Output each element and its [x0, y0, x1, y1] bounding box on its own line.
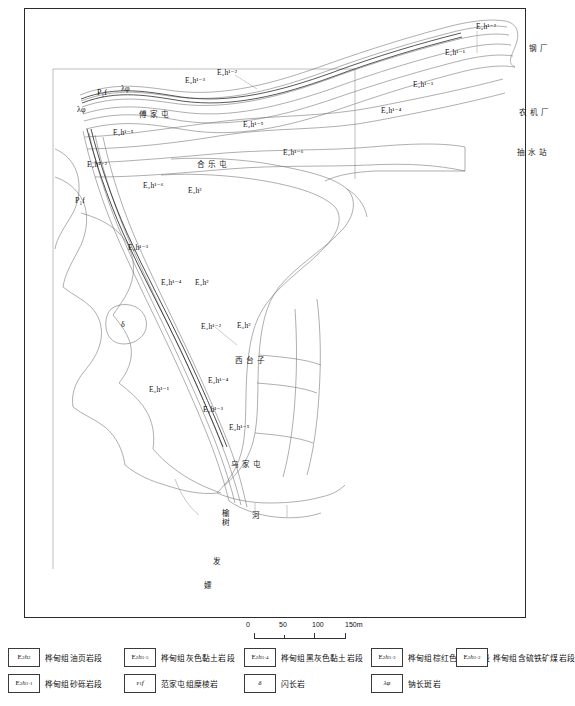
unit-label-u1: E₂h¹⁻²: [476, 23, 496, 31]
legend-label-l3: 桦甸组黑灰色黏土岩段: [281, 652, 363, 663]
unit-label-u16: E₂h¹⁻²: [201, 323, 221, 331]
place-label-p7: 抽水站: [517, 149, 550, 157]
unit-label-u12: E₂h²: [188, 187, 202, 195]
place-label-p6: 农机厂: [519, 109, 552, 117]
legend-label-l5: 桦甸组含硫铁矿煤岩段: [493, 652, 575, 663]
symbol-label-s2: P₁f: [75, 197, 85, 205]
place-label-p5: 钢厂: [529, 45, 551, 53]
unit-label-u2: E₂h¹⁻¹: [445, 49, 465, 57]
legend-label-l7: 范家屯组糜棱岩: [161, 678, 218, 689]
legend: E2h2桦甸组油页岩段E2h1-5桦甸组灰色黏土岩段E2h1-4桦甸组黑灰色黏土…: [4, 648, 564, 700]
unit-label-u3: E₂h¹⁻²: [217, 69, 237, 77]
unit-label-u6: E₂h¹⁻⁴: [381, 107, 401, 115]
place-label-p4: 乌家屯: [231, 461, 264, 469]
scale-bar: 050100150m: [246, 621, 366, 645]
legend-label-l2: 桦甸组灰色黏土岩段: [161, 652, 235, 663]
scale-tick-1: 50: [279, 621, 287, 628]
legend-item-l9[interactable]: λ φ钠长斑岩: [371, 674, 441, 693]
legend-symbol-l2: E2h1-5: [124, 648, 156, 667]
legend-label-l6: 桦甸组砂砾岩段: [45, 678, 102, 689]
unit-label-u13: E₂h¹⁻³: [128, 244, 148, 252]
legend-row-2: E2h1-1桦甸组砂砾岩段P1f范家屯组糜棱岩δ闪长岩λ φ钠长斑岩: [4, 674, 564, 700]
legend-symbol-l6: E2h1-1: [8, 674, 40, 693]
unit-label-u10: E₂h¹⁻²: [87, 161, 107, 169]
legend-item-l3[interactable]: E2h1-4桦甸组黑灰色黏土岩段: [244, 648, 363, 667]
legend-symbol-l8: δ: [244, 674, 276, 693]
legend-item-l5[interactable]: E2h1-2桦甸组含硫铁矿煤岩段: [456, 648, 575, 667]
legend-item-l8[interactable]: δ闪长岩: [244, 674, 306, 693]
legend-item-l2[interactable]: E2h1-5桦甸组灰色黏土岩段: [124, 648, 235, 667]
symbol-label-s1: P₁f: [97, 89, 107, 97]
vertical-label-v1: 榆树: [221, 509, 229, 527]
legend-item-l1[interactable]: E2h2桦甸组油页岩段: [8, 648, 102, 667]
scale-bar-graphic: [254, 632, 346, 639]
legend-label-l8: 闪长岩: [281, 678, 306, 689]
legend-symbol-l4: E2h1-3: [371, 648, 403, 667]
legend-symbol-l9: λ φ: [371, 674, 403, 693]
legend-row-1: E2h2桦甸组油页岩段E2h1-5桦甸组灰色黏土岩段E2h1-4桦甸组黑灰色黏土…: [4, 648, 564, 674]
legend-label-l9: 钠长斑岩: [408, 678, 441, 689]
scale-tick-0: 0: [246, 621, 250, 628]
unit-label-u7: E₂h¹⁻⁵: [243, 121, 263, 129]
vertical-label-v4: 嫖: [203, 581, 211, 590]
scale-tick-3: 150m: [345, 621, 363, 628]
legend-symbol-l1: E2h2: [8, 648, 40, 667]
geology-linework: [25, 9, 525, 617]
legend-label-l1: 桦甸组油页岩段: [45, 652, 102, 663]
legend-symbol-l7: P1f: [124, 674, 156, 693]
legend-item-l7[interactable]: P1f范家屯组糜棱岩: [124, 674, 218, 693]
unit-label-u19: E₂h¹⁻¹: [149, 386, 169, 394]
unit-label-u17: E₂h²: [237, 322, 251, 330]
unit-label-u9: E₂h¹⁻⁶: [283, 149, 303, 157]
unit-label-u14: E₂h¹⁻⁴: [161, 279, 181, 287]
scale-tick-labels: 050100150m: [246, 621, 366, 630]
symbol-label-s3: λφ: [121, 85, 130, 93]
unit-label-u11: E₂h¹⁻⁶: [143, 182, 163, 190]
unit-label-u5: E₂h¹⁻³: [413, 81, 433, 89]
symbol-label-s5: δ: [121, 321, 125, 329]
legend-symbol-l3: E2h1-4: [244, 648, 276, 667]
map-frame: E₂h¹⁻²E₂h¹⁻¹E₂h¹⁻²E₂h¹⁻³E₂h¹⁻³E₂h¹⁻⁴E₂h¹…: [24, 8, 526, 618]
legend-symbol-l5: E2h1-2: [456, 648, 488, 667]
legend-item-l6[interactable]: E2h1-1桦甸组砂砾岩段: [8, 674, 102, 693]
unit-label-u20: E₂h¹⁻³: [203, 406, 223, 414]
place-label-p1: 傅家屯: [139, 111, 172, 119]
unit-label-u15: E₂h²: [195, 279, 209, 287]
vertical-label-v2: 河: [251, 511, 259, 520]
unit-label-u21: E₂h¹⁻⁵: [229, 424, 249, 432]
place-label-p2: 合乐屯: [197, 161, 230, 169]
unit-label-u18: E₂h¹⁻⁴: [208, 377, 228, 385]
unit-label-u4: E₂h¹⁻³: [185, 77, 205, 85]
unit-label-u8: E₂h¹⁻⁵: [113, 129, 133, 137]
vertical-label-v3: 发: [212, 557, 220, 566]
scale-tick-2: 100: [312, 621, 324, 628]
symbol-label-s4: λφ: [77, 106, 86, 114]
place-label-p3: 西台子: [235, 357, 268, 365]
